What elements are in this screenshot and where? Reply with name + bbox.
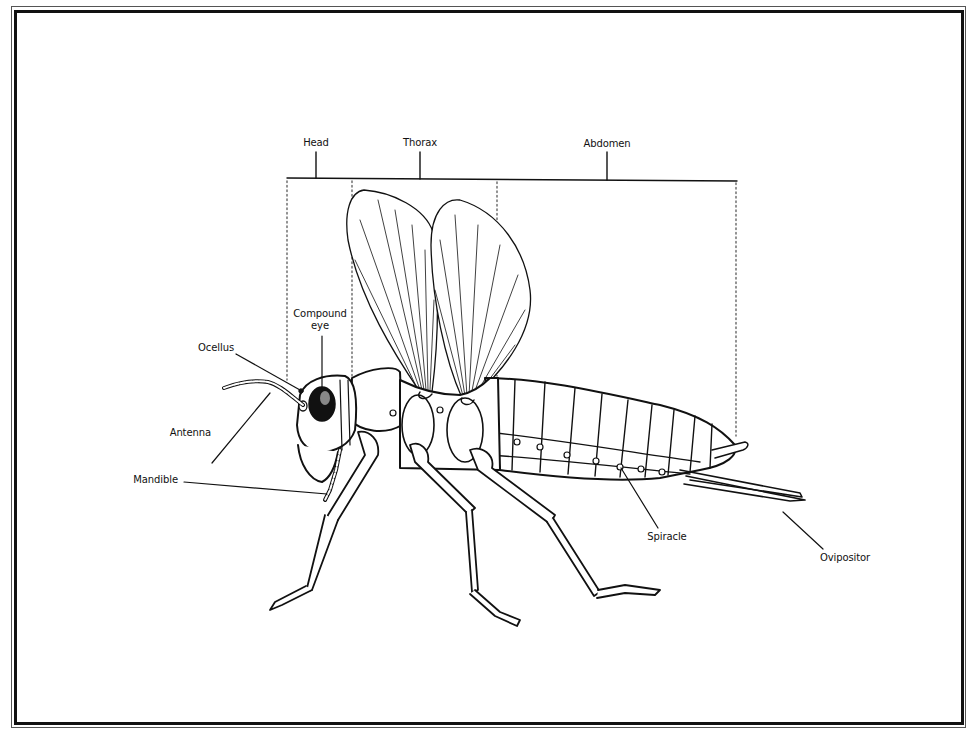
label-mandible: Mandible <box>133 474 178 486</box>
fore-wing <box>347 190 438 392</box>
label-spiracle: Spiracle <box>647 531 686 543</box>
compound-eye-drawing <box>309 387 335 421</box>
head-body <box>297 376 356 482</box>
insect-illustration <box>0 0 976 747</box>
hind-wing <box>431 200 531 398</box>
label-thorax: Thorax <box>403 137 437 149</box>
label-ocellus: Ocellus <box>198 342 234 354</box>
region-bracket <box>287 152 737 181</box>
ovipositor-drawing <box>680 470 805 501</box>
label-antenna: Antenna <box>170 427 211 439</box>
label-compound-eye: Compound eye <box>293 308 347 332</box>
abdomen-body <box>485 378 748 480</box>
label-abdomen: Abdomen <box>583 138 630 150</box>
label-head: Head <box>303 137 329 149</box>
label-ovipositor: Ovipositor <box>820 552 870 564</box>
